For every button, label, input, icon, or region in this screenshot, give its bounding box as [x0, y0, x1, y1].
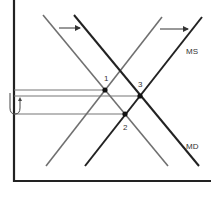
- money-market-diagram: 1 3 2 MS MD: [0, 0, 211, 200]
- labels: 1 3 2 MS MD: [104, 47, 199, 151]
- ms-label: MS: [186, 47, 198, 56]
- shift-arrows: [59, 28, 188, 29]
- point-3-dot: [137, 93, 142, 98]
- axes: [13, 0, 211, 182]
- md-label: MD: [186, 142, 199, 151]
- point-2-label: 2: [123, 123, 128, 132]
- point-3-label: 3: [138, 80, 143, 89]
- ms-shifted-curve: [85, 17, 202, 166]
- point-1-label: 1: [104, 74, 109, 83]
- point-1-dot: [102, 87, 107, 92]
- point-2-dot: [122, 111, 127, 116]
